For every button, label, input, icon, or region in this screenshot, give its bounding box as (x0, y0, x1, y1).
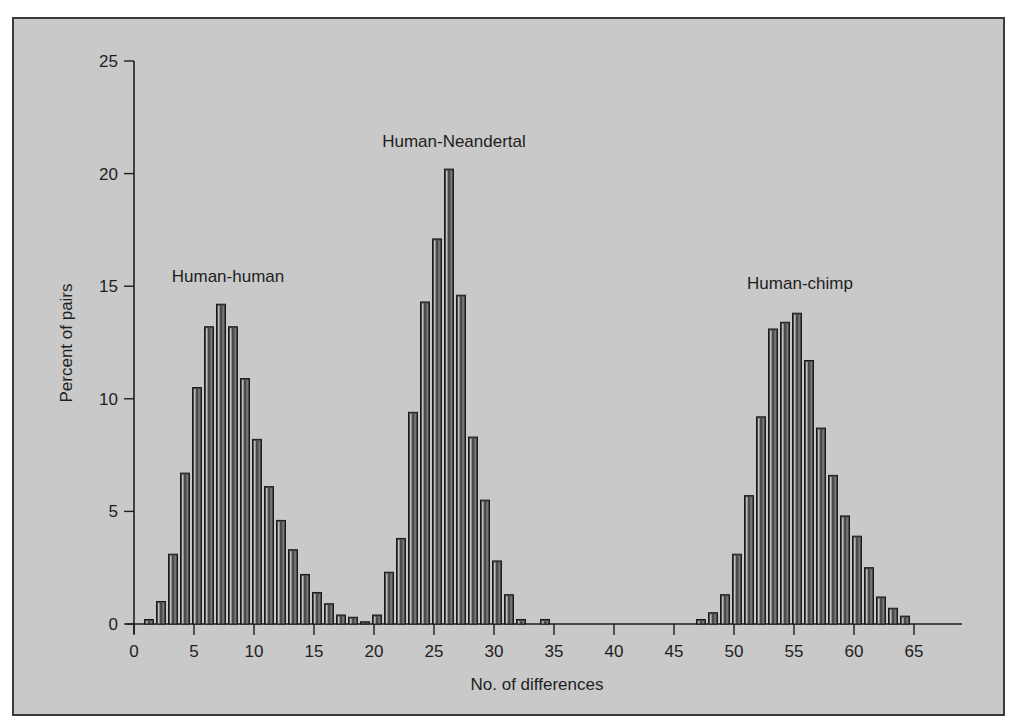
bar (289, 550, 298, 624)
bar (421, 302, 430, 624)
x-tick-label: 50 (725, 642, 744, 661)
bar (385, 572, 394, 624)
bar (277, 520, 286, 624)
y-tick-label: 0 (109, 615, 118, 634)
bars (145, 169, 910, 624)
x-tick-label: 0 (129, 642, 138, 661)
x-tick-label: 15 (305, 642, 324, 661)
bar (877, 597, 886, 624)
bar (157, 601, 166, 624)
x-tick-label: 30 (485, 642, 504, 661)
x-tick-label: 35 (545, 642, 564, 661)
annotations: Human-humanHuman-NeandertalHuman-chimp (172, 132, 853, 293)
bar (265, 487, 274, 624)
bar (709, 613, 718, 624)
series-label: Human-Neandertal (382, 132, 526, 151)
bar (373, 615, 382, 624)
bar (193, 388, 202, 624)
bar (829, 475, 838, 624)
bar (505, 595, 514, 624)
x-tick-label: 65 (905, 642, 924, 661)
bar (169, 554, 178, 624)
bar (781, 322, 790, 624)
bar (805, 361, 814, 624)
bar (757, 417, 766, 624)
x-axis-title: No. of differences (471, 675, 604, 694)
bar (253, 439, 262, 624)
bar (493, 561, 502, 624)
series-label: Human-human (172, 267, 284, 286)
y-tick-label: 10 (99, 390, 118, 409)
y-axis-title: Percent of pairs (57, 283, 76, 402)
x-tick-label: 45 (665, 642, 684, 661)
bar (865, 568, 874, 624)
x-tick-label: 55 (785, 642, 804, 661)
bar (481, 500, 490, 624)
bar (901, 616, 910, 624)
bar (793, 313, 802, 624)
bar (733, 554, 742, 624)
bar (397, 538, 406, 624)
x-tick-label: 5 (189, 642, 198, 661)
bar (349, 617, 358, 624)
bar (217, 304, 226, 624)
bar (697, 619, 706, 624)
bar (361, 622, 370, 624)
bar (769, 329, 778, 624)
bar (409, 412, 418, 624)
bar (469, 437, 478, 624)
x-tick-label: 60 (845, 642, 864, 661)
bar (241, 379, 250, 624)
bar (817, 428, 826, 624)
bar (889, 608, 898, 624)
bar (313, 592, 322, 624)
bar (205, 327, 214, 624)
bar (745, 496, 754, 624)
bar (853, 536, 862, 624)
bar (337, 615, 346, 624)
bar (181, 473, 190, 624)
x-tick-label: 40 (605, 642, 624, 661)
bar (457, 295, 466, 624)
bar (325, 604, 334, 624)
series-label: Human-chimp (747, 274, 853, 293)
bar (841, 516, 850, 624)
y-tick-label: 20 (99, 165, 118, 184)
y-tick-label: 25 (99, 52, 118, 71)
bar (433, 239, 442, 624)
histogram-chart: 051015202505101520253035404550556065 Hum… (0, 0, 1019, 727)
bar (721, 595, 730, 624)
bar (301, 574, 310, 624)
bar (229, 327, 238, 624)
y-tick-label: 5 (109, 502, 118, 521)
bar (145, 619, 154, 624)
y-tick-label: 15 (99, 277, 118, 296)
bar (445, 169, 454, 624)
x-tick-label: 10 (245, 642, 264, 661)
bar (517, 619, 526, 624)
x-tick-label: 25 (425, 642, 444, 661)
x-tick-label: 20 (365, 642, 384, 661)
bar (541, 619, 550, 624)
